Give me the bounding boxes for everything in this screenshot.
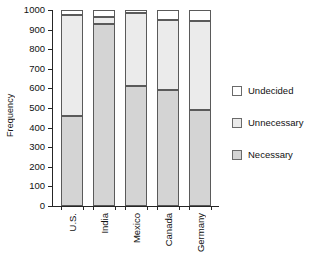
y-tick-mark	[48, 88, 52, 89]
y-tick-mark	[48, 69, 52, 70]
legend-swatch-necessary	[232, 150, 242, 160]
y-axis-line	[52, 10, 53, 207]
y-tick-label: 900	[29, 24, 45, 35]
y-tick-900: 900	[0, 30, 52, 31]
y-tick-0: 0	[0, 206, 52, 207]
y-tick-mark	[48, 186, 52, 187]
x-tick-mark	[157, 206, 158, 210]
y-tick-label: 300	[29, 141, 45, 152]
x-tick-mark	[125, 206, 126, 210]
y-tick-mark	[48, 49, 52, 50]
legend-label-unnecessary: Unnecessary	[248, 117, 303, 128]
bar-segment-necessary[interactable]	[93, 24, 115, 206]
legend-swatch-undecided	[232, 86, 242, 96]
y-tick-700: 700	[0, 69, 52, 70]
y-tick-300: 300	[0, 147, 52, 148]
y-tick-500: 500	[0, 108, 52, 109]
y-tick-label: 500	[29, 102, 45, 113]
legend-label-necessary: Necessary	[248, 149, 293, 160]
bar-segment-necessary[interactable]	[189, 110, 211, 206]
bar-segment-unnecessary[interactable]	[93, 17, 115, 24]
y-tick-800: 800	[0, 49, 52, 50]
bar-segment-undecided[interactable]	[93, 10, 115, 17]
x-tick-mark	[211, 206, 212, 210]
x-axis-label-us: U.S.	[67, 213, 78, 231]
x-tick-mark	[93, 206, 94, 210]
bar-canada[interactable]	[157, 10, 179, 206]
legend-label-undecided: Undecided	[248, 85, 293, 96]
y-tick-label: 600	[29, 82, 45, 93]
legend-item-undecided[interactable]: Undecided	[232, 84, 318, 97]
x-axis-label-germany: Germany	[195, 213, 206, 252]
bar-segment-necessary[interactable]	[61, 116, 83, 206]
stacked-bar-chart: Frequency 010020030040050060070080090010…	[0, 0, 322, 258]
bar-segment-unnecessary[interactable]	[125, 13, 147, 87]
x-tick-mark	[115, 206, 116, 210]
bar-segment-necessary[interactable]	[157, 90, 179, 206]
y-tick-label: 100	[29, 180, 45, 191]
y-tick-600: 600	[0, 88, 52, 89]
y-tick-mark	[48, 147, 52, 148]
x-tick-mark	[189, 206, 190, 210]
y-tick-label: 400	[29, 122, 45, 133]
y-tick-label: 800	[29, 43, 45, 54]
y-tick-100: 100	[0, 186, 52, 187]
bar-segment-unnecessary[interactable]	[189, 21, 211, 110]
y-tick-1000: 1000	[0, 10, 52, 11]
y-tick-mark	[48, 108, 52, 109]
x-tick-mark	[147, 206, 148, 210]
x-axis-label-canada: Canada	[163, 213, 174, 246]
x-axis-label-mexico: Mexico	[131, 213, 142, 243]
legend-swatch-unnecessary	[232, 118, 242, 128]
y-tick-mark	[48, 167, 52, 168]
plot-area	[56, 10, 216, 206]
y-tick-400: 400	[0, 128, 52, 129]
bar-germany[interactable]	[189, 10, 211, 206]
legend-item-unnecessary[interactable]: Unnecessary	[232, 116, 318, 129]
y-tick-mark	[48, 206, 52, 207]
y-axis-title: Frequency	[2, 60, 18, 170]
y-tick-200: 200	[0, 167, 52, 168]
y-tick-label: 200	[29, 161, 45, 172]
bar-mexico[interactable]	[125, 10, 147, 206]
bar-segment-undecided[interactable]	[157, 10, 179, 20]
x-axis-label-india: India	[99, 213, 110, 234]
x-tick-mark	[83, 206, 84, 210]
legend-item-necessary[interactable]: Necessary	[232, 148, 318, 161]
bar-segment-unnecessary[interactable]	[61, 15, 83, 116]
x-tick-mark	[179, 206, 180, 210]
y-tick-label: 700	[29, 63, 45, 74]
y-tick-mark	[48, 10, 52, 11]
y-tick-mark	[48, 30, 52, 31]
y-tick-label: 0	[40, 200, 45, 211]
y-tick-label: 1000	[24, 4, 45, 15]
x-axis-line	[52, 206, 219, 207]
bar-segment-undecided[interactable]	[189, 10, 211, 21]
y-tick-mark	[48, 128, 52, 129]
chart-legend: Undecided Unnecessary Necessary	[232, 84, 318, 180]
bar-us[interactable]	[61, 10, 83, 206]
x-tick-mark	[61, 206, 62, 210]
bar-segment-unnecessary[interactable]	[157, 20, 179, 91]
bar-india[interactable]	[93, 10, 115, 206]
bar-segment-necessary[interactable]	[125, 86, 147, 206]
